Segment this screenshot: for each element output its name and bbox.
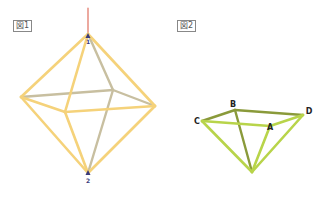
top-vertex-label: 1 (86, 38, 90, 45)
vertex-label-b: B (230, 100, 236, 109)
pyramid-figure: B C D A (194, 100, 313, 172)
front-edges (21, 34, 155, 173)
octahedron-figure: 1 2 (21, 8, 155, 184)
light-edges (202, 115, 303, 172)
vertex-label-a: A (267, 123, 274, 132)
bottom-vertex-label: 2 (86, 177, 90, 184)
diagram-canvas: 1 2 B C D A (0, 0, 324, 200)
vertex-label-d: D (306, 107, 313, 116)
vertex-label-c: C (194, 117, 200, 126)
